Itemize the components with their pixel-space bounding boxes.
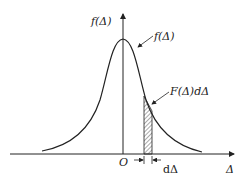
- curve-label: f(Δ): [153, 30, 175, 43]
- origin-label: O: [119, 156, 128, 169]
- curve-label-leader: [138, 36, 153, 47]
- x-axis-label: Δ: [225, 163, 234, 176]
- strip-label-leader: [152, 92, 169, 104]
- diagram-canvas: f(Δ) f(Δ) F(Δ)dΔ O dΔ Δ: [0, 0, 246, 182]
- normal-distribution-diagram: f(Δ) f(Δ) F(Δ)dΔ O dΔ Δ: [0, 0, 246, 182]
- y-axis-label: f(Δ): [90, 15, 112, 28]
- strip-label: F(Δ)dΔ: [169, 85, 209, 98]
- width-label: dΔ: [163, 163, 178, 176]
